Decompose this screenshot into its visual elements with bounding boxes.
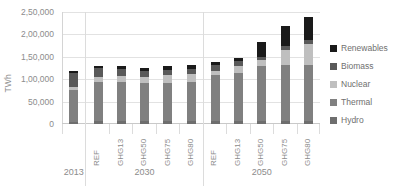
bar-slot — [297, 12, 320, 124]
scenario-label-slot: GHG50 — [250, 126, 273, 166]
stacked-bar[interactable] — [234, 58, 243, 124]
scenario-label: GHG13 — [234, 127, 242, 166]
year-label-cell: 2030 — [85, 168, 202, 186]
y-axis-tick-label: 1,50,000 — [21, 53, 54, 62]
year-label-cell: 2050 — [203, 168, 320, 186]
scenario-label: GHG80 — [304, 127, 312, 166]
bar-segment-thermal — [94, 82, 103, 121]
stacked-bar-chart: TWh 050,0001,00,0001,50,0002,00,0002,50,… — [0, 0, 412, 195]
bar-segment-nuclear — [163, 75, 172, 83]
scenario-label: GHG13 — [117, 127, 125, 166]
scenario-label: GHG80 — [187, 127, 195, 166]
bar-slot — [62, 12, 85, 124]
bar-segment-nuclear — [281, 50, 290, 66]
bar-segment-renewables — [281, 26, 290, 45]
scenario-label-slot: GHG80 — [179, 126, 202, 166]
legend-item-hydro[interactable]: Hydro — [330, 116, 410, 125]
y-axis-tick-label: 2,00,000 — [21, 30, 54, 39]
scenario-label-slot: REF — [85, 126, 108, 166]
bar-segment-thermal — [257, 66, 266, 121]
bar-segment-nuclear — [304, 44, 313, 66]
plot-area — [62, 12, 320, 124]
stacked-bar[interactable] — [140, 68, 149, 124]
legend-item-nuclear[interactable]: Nuclear — [330, 80, 410, 89]
stacked-bar[interactable] — [187, 65, 196, 124]
stacked-bar[interactable] — [304, 17, 313, 124]
bar-segment-thermal — [163, 83, 172, 122]
bar-slot — [179, 12, 202, 124]
scenario-labels: REFGHG13GHG50GHG75GHG80REFGHG13GHG50GHG7… — [62, 126, 320, 166]
scenario-label-slot: GHG13 — [226, 126, 249, 166]
bar-segment-nuclear — [187, 74, 196, 82]
year-label: 2030 — [135, 168, 155, 177]
legend-item-thermal[interactable]: Thermal — [330, 98, 410, 107]
legend-item-renewables[interactable]: Renewables — [330, 44, 410, 53]
scenario-label-slot — [62, 126, 85, 166]
bar-group-2030 — [85, 12, 202, 124]
scenario-label-slot: REF — [203, 126, 226, 166]
legend-swatch-icon — [330, 63, 337, 70]
scenario-label: REF — [210, 127, 218, 166]
legend-label: Hydro — [341, 116, 364, 125]
scenario-label: REF — [93, 127, 101, 166]
bar-segment-thermal — [187, 82, 196, 121]
bar-segment-nuclear — [140, 77, 149, 84]
bar-segment-renewables — [257, 42, 266, 57]
y-axis-tick-label: 2,50,000 — [21, 8, 54, 17]
bar-slot — [86, 12, 109, 124]
bar-slot — [204, 12, 227, 124]
bar-segment-thermal — [304, 65, 313, 121]
bar-segment-thermal — [117, 82, 126, 121]
scenario-label: GHG75 — [281, 127, 289, 166]
stacked-bar[interactable] — [163, 66, 172, 124]
y-axis-tick-label: 50,000 — [28, 97, 54, 106]
legend-label: Renewables — [341, 44, 388, 53]
bar-segment-nuclear — [234, 66, 243, 73]
legend-label: Thermal — [341, 98, 372, 107]
y-axis-tick-label: 1,00,000 — [21, 75, 54, 84]
bar-slot — [110, 12, 133, 124]
stacked-bar[interactable] — [69, 71, 78, 124]
bar-segment-biomass — [94, 68, 103, 77]
year-label: 2013 — [64, 168, 84, 177]
stacked-bar[interactable] — [117, 66, 126, 124]
scenario-label-slot: GHG50 — [132, 126, 155, 166]
stacked-bar[interactable] — [211, 62, 220, 124]
stacked-bar[interactable] — [257, 42, 266, 124]
legend-item-biomass[interactable]: Biomass — [330, 62, 410, 71]
y-axis-title: TWh — [3, 74, 13, 93]
legend-swatch-icon — [330, 81, 337, 88]
bar-segment-renewables — [304, 17, 313, 40]
scenario-label-group: REFGHG13GHG50GHG75GHG80 — [203, 126, 320, 166]
scenario-label-slot: GHG75 — [156, 126, 179, 166]
legend-swatch-icon — [330, 45, 337, 52]
bar-segment-biomass — [69, 73, 78, 86]
bar-slot — [273, 12, 296, 124]
scenario-label-slot: GHG75 — [273, 126, 296, 166]
scenario-label: GHG75 — [164, 127, 172, 166]
bar-slot — [227, 12, 250, 124]
legend-label: Biomass — [341, 62, 374, 71]
bar-segment-thermal — [69, 90, 78, 121]
scenario-label: GHG50 — [257, 127, 265, 166]
scenario-label-group: REFGHG13GHG50GHG75GHG80 — [85, 126, 202, 166]
legend-swatch-icon — [330, 117, 337, 124]
scenario-label-slot: GHG80 — [297, 126, 320, 166]
bar-slot — [250, 12, 273, 124]
stacked-bar[interactable] — [281, 26, 290, 124]
bar-segment-thermal — [234, 73, 243, 121]
legend: RenewablesBiomassNuclearThermalHydro — [330, 44, 410, 134]
stacked-bar[interactable] — [94, 66, 103, 124]
bar-groups — [62, 12, 320, 124]
y-axis-tick-label: 0 — [49, 120, 54, 129]
legend-swatch-icon — [330, 99, 337, 106]
year-labels: 201320302050 — [62, 168, 320, 186]
bar-segment-thermal — [140, 83, 149, 121]
y-axis: TWh 050,0001,00,0001,50,0002,00,0002,50,… — [0, 12, 58, 124]
bar-group-2050 — [203, 12, 320, 124]
scenario-label-group — [62, 126, 85, 166]
bar-segment-thermal — [281, 65, 290, 121]
bar-group-2013 — [62, 12, 85, 124]
bar-slot — [156, 12, 179, 124]
year-label-cell: 2013 — [62, 168, 85, 186]
